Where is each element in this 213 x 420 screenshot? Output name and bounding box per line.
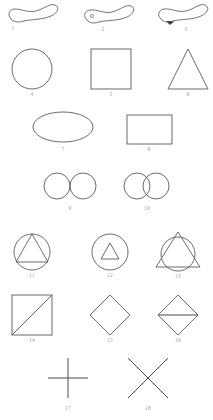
figure-item-17: 17	[48, 358, 88, 411]
figure-label-3: 3	[184, 26, 187, 32]
figure-label-6: 6	[186, 91, 189, 97]
figure-label-1: 1	[11, 25, 14, 31]
figure-item-1: 1	[9, 5, 58, 31]
figure-item-12: 12	[92, 234, 128, 278]
figure-item-3: 3	[159, 5, 208, 32]
figure-plate: 1 2 3 4 5 6 7 8 9 10	[0, 0, 213, 420]
figure-item-15: 15	[90, 295, 130, 343]
figure-label-4: 4	[30, 91, 33, 97]
figure-item-7: 7	[33, 112, 93, 152]
figure-item-8: 8	[127, 115, 172, 152]
figure-item-13: 13	[156, 232, 200, 279]
figure-item-2: 2	[85, 6, 134, 32]
figure-label-17: 17	[65, 405, 71, 411]
figure-label-18: 18	[145, 405, 151, 411]
figure-item-14: 14	[12, 295, 52, 343]
figure-item-11: 11	[14, 234, 50, 278]
figure-label-13: 13	[175, 273, 181, 279]
figure-label-9: 9	[68, 205, 71, 211]
figure-label-7: 7	[61, 146, 64, 152]
figure-item-5: 5	[91, 49, 131, 97]
figure-3-arrowhead	[166, 21, 174, 25]
figure-label-16: 16	[175, 337, 181, 343]
figure-2-dot-marker	[90, 14, 93, 17]
figure-label-14: 14	[29, 337, 35, 343]
figure-label-2: 2	[101, 26, 104, 32]
figure-item-10: 10	[124, 173, 169, 211]
figure-item-9: 9	[44, 173, 96, 211]
figure-label-5: 5	[109, 91, 112, 97]
figure-item-6: 6	[168, 49, 208, 97]
figure-item-18: 18	[128, 358, 168, 411]
figure-label-10: 10	[144, 205, 150, 211]
figure-item-16: 16	[158, 295, 198, 343]
figure-label-15: 15	[107, 337, 113, 343]
figure-label-12: 12	[107, 272, 113, 278]
figure-label-8: 8	[147, 146, 150, 152]
figure-item-4: 4	[12, 49, 52, 97]
figure-label-11: 11	[29, 272, 35, 278]
